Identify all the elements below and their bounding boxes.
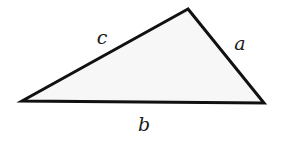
side-label-c: c <box>97 26 108 48</box>
side-label-a: a <box>234 32 245 54</box>
triangle-shape <box>22 9 264 103</box>
side-label-b: b <box>138 113 150 135</box>
triangle-figure: c a b <box>0 0 283 147</box>
triangle-diagram: c a b <box>0 0 283 147</box>
